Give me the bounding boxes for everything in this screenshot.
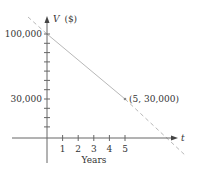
y-tick-label-30000: 30,000 [11, 94, 43, 104]
x-axis-caption: Years [81, 155, 107, 165]
y-tick-label-100000: 100,000 [5, 29, 42, 39]
point-annotation: (5, 30,000) [129, 94, 179, 104]
x-tick-label-2: 2 [75, 144, 81, 154]
line-extension-right [125, 99, 186, 156]
x-axis-symbol: t [181, 133, 185, 143]
x-tick-label-5: 5 [122, 144, 128, 154]
x-tick-label-3: 3 [91, 144, 97, 154]
value-line [47, 34, 125, 99]
x-tick-label-4: 4 [107, 144, 113, 154]
data-point [124, 98, 127, 101]
y-axis-label: V ($) [53, 14, 77, 24]
x-axis-arrow-icon [171, 136, 178, 141]
y-axis-arrow-icon [45, 16, 50, 23]
depreciation-chart: V ($) 100,000 30,000 1 2 3 4 5 Years t (… [0, 0, 209, 175]
x-tick-label-1: 1 [60, 144, 66, 154]
